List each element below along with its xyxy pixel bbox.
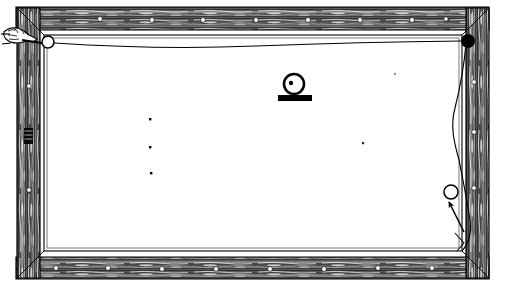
- frame-left-stile: [17, 8, 40, 278]
- bob-center-dot: [289, 81, 293, 85]
- speck-dot: [149, 146, 151, 148]
- bob-circle: [284, 74, 304, 94]
- wooden-frame: [16, 7, 489, 279]
- bob-base: [278, 95, 312, 101]
- speck-dot: [149, 118, 151, 120]
- left-anchor-ring: [42, 36, 54, 48]
- speck-dot: [394, 73, 396, 75]
- speck-dot: [150, 172, 152, 174]
- frame-top-rail: [16, 7, 489, 30]
- figure-canvas: Wooden frame with suspended wire and pen…: [0, 0, 505, 286]
- frame-bottom-rail: [16, 257, 489, 279]
- speck-dot: [362, 142, 364, 144]
- frame-illustration: [0, 0, 505, 286]
- frame-inner-opening: [44, 35, 462, 251]
- lower-right-ring: [444, 185, 458, 199]
- right-anchor-bead: [461, 34, 475, 48]
